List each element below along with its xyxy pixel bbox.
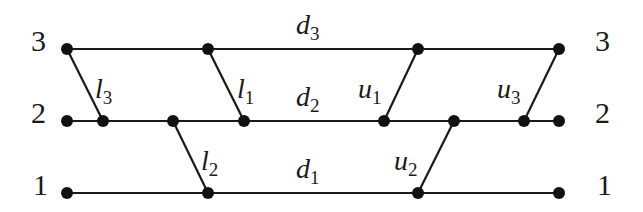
node	[553, 43, 565, 55]
label-d2: d2	[296, 81, 320, 116]
node	[61, 187, 73, 199]
label-d3: d3	[296, 9, 320, 44]
label-d1: d1	[296, 153, 320, 188]
node	[61, 115, 73, 127]
node	[61, 43, 73, 55]
node	[202, 187, 214, 199]
row-label-left-1: 1	[33, 168, 48, 201]
node	[167, 115, 179, 127]
label-l1: l1	[237, 73, 254, 108]
label-u1: u1	[358, 73, 382, 108]
node	[518, 115, 530, 127]
row-label-left-3: 3	[31, 24, 46, 57]
row-label-right-3: 3	[595, 24, 610, 57]
node	[553, 187, 565, 199]
edge-u1	[384, 49, 418, 121]
node	[553, 115, 565, 127]
edge-u3	[524, 49, 559, 121]
node	[412, 187, 424, 199]
row-label-right-1: 1	[597, 168, 612, 201]
edge-u2	[418, 121, 454, 193]
label-u3: u3	[497, 73, 521, 108]
node	[97, 115, 109, 127]
level-diagram: 3 2 1 3 2 1 d3 d2 d1 l3 l1 l2 u1 u3 u2	[0, 0, 643, 212]
node	[412, 43, 424, 55]
label-l3: l3	[95, 73, 112, 108]
node	[448, 115, 460, 127]
row-label-left-2: 2	[31, 96, 46, 129]
label-l2: l2	[201, 145, 218, 180]
node	[202, 43, 214, 55]
node	[238, 115, 250, 127]
node	[378, 115, 390, 127]
label-u2: u2	[394, 145, 418, 180]
row-label-right-2: 2	[595, 96, 610, 129]
